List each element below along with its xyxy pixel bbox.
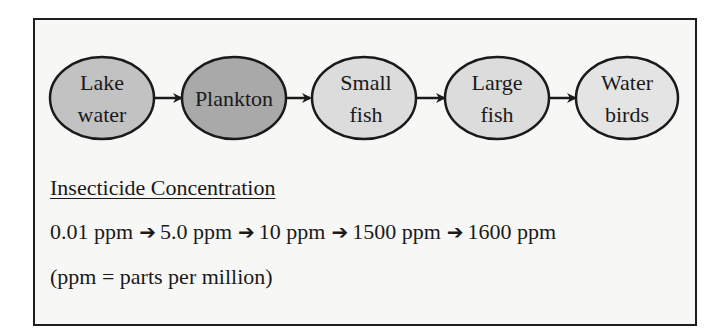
- right-arrow-icon: ➔: [447, 220, 464, 244]
- node-label-line: water: [78, 102, 128, 127]
- node-label-line: Lake: [80, 70, 124, 95]
- concentration-value: 0.01 ppm: [50, 219, 133, 245]
- node-label-line: Small: [340, 70, 391, 95]
- concentration-value: 1600 ppm: [468, 219, 557, 245]
- right-arrow-icon: ➔: [238, 220, 255, 244]
- node-label-line: Large: [472, 70, 523, 95]
- node-label-line: Water: [601, 70, 654, 95]
- node-plankton: Plankton: [182, 57, 286, 139]
- node-large-fish: Large fish: [445, 57, 549, 139]
- right-arrow-icon: ➔: [139, 220, 156, 244]
- node-label-line: birds: [605, 102, 649, 127]
- node-lake-water: Lake water: [50, 57, 154, 139]
- ppm-note: (ppm = parts per million): [50, 264, 273, 290]
- node-small-fish: Small fish: [312, 57, 416, 139]
- concentration-value: 10 ppm: [259, 219, 326, 245]
- concentration-heading: Insecticide Concentration: [50, 175, 275, 201]
- concentration-value: 1500 ppm: [352, 219, 441, 245]
- node-label-line: Plankton: [195, 86, 273, 111]
- concentration-value: 5.0 ppm: [160, 219, 232, 245]
- concentration-row: 0.01 ppm ➔ 5.0 ppm ➔ 10 ppm ➔ 1500 ppm ➔…: [50, 219, 556, 245]
- food-chain-diagram: Lake water Plankton Small fish Large fis…: [0, 0, 716, 160]
- node-water-birds: Water birds: [576, 57, 678, 139]
- right-arrow-icon: ➔: [331, 220, 348, 244]
- node-label-line: fish: [481, 102, 514, 127]
- node-label-line: fish: [350, 102, 383, 127]
